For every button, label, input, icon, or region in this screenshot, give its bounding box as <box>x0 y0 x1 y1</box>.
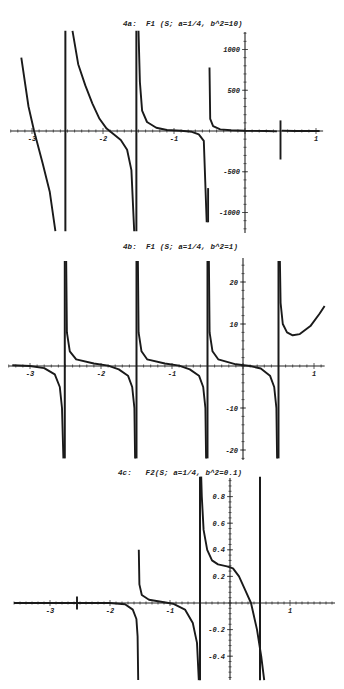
y-tick-label: 1000 <box>223 46 240 54</box>
y-tick-label: -500 <box>223 168 240 176</box>
x-tick-label: -2 <box>99 135 108 143</box>
curve-branch-1 <box>21 58 55 232</box>
y-tick-label: 20 <box>230 279 238 287</box>
y-tick-label: 10 <box>230 321 238 329</box>
curve-branch-1 <box>12 365 63 458</box>
y-tick-label: -0.2 <box>208 626 226 634</box>
plots-canvas: -3-2-111000500-500-1000 -3-2-112010-10-2… <box>0 0 344 689</box>
x-tick-label: -2 <box>97 370 106 378</box>
chart-4c: -3-2-110.80.60.40.2-0.2-0.4 <box>14 477 335 681</box>
y-tick-label: -1000 <box>219 209 240 217</box>
chart-4b: -3-2-112010-10-20 <box>9 258 325 460</box>
x-tick-label: 1 <box>288 607 292 615</box>
x-tick-label: -3 <box>26 370 35 378</box>
y-tick-label: -0.4 <box>208 653 225 661</box>
curve-branch-1 <box>14 603 138 680</box>
x-tick-label: -1 <box>166 607 174 615</box>
x-tick-label: -1 <box>168 370 176 378</box>
y-tick-label: 0.2 <box>212 573 225 581</box>
curve-branch-3 <box>139 31 207 223</box>
curve-branch-4 <box>210 67 277 131</box>
x-tick-label: -3 <box>46 607 55 615</box>
chart-4a: -3-2-111000500-500-1000 <box>11 31 323 233</box>
curve-branch-3 <box>201 477 264 680</box>
y-tick-label: -20 <box>225 447 238 455</box>
y-tick-label: 500 <box>227 87 240 95</box>
x-tick-label: -2 <box>106 607 115 615</box>
y-tick-label: -10 <box>225 405 238 413</box>
curve-branch-2 <box>66 261 135 458</box>
y-tick-label: 0.4 <box>212 546 225 554</box>
curve-branch-5 <box>280 261 325 335</box>
x-tick-label: -1 <box>170 135 178 143</box>
x-tick-label: 1 <box>314 135 318 143</box>
curve-branch-3 <box>138 261 206 458</box>
y-tick-label: 0.6 <box>212 520 225 528</box>
y-tick-label: 0.8 <box>212 493 225 501</box>
x-tick-label: 1 <box>312 370 316 378</box>
